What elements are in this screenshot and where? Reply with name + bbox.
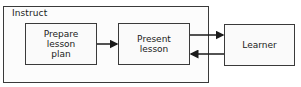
- present-lesson-node: Present lesson: [118, 23, 190, 65]
- prepare-lesson-plan-node: Prepare lesson plan: [25, 23, 97, 65]
- learner-node: Learner: [224, 24, 295, 66]
- instruct-label: Instruct: [12, 8, 47, 18]
